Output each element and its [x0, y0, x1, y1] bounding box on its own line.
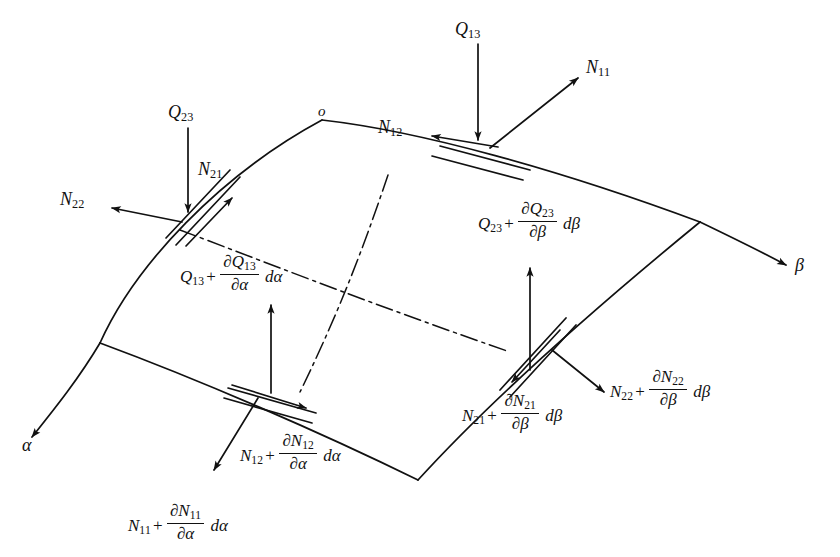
N21-arrow: [186, 198, 232, 246]
bottom-face-band-a: [228, 388, 316, 413]
N12-alpha-arrow: [232, 385, 306, 408]
expr-num-base: ∂N: [282, 431, 302, 450]
expr-plus: +: [151, 516, 165, 535]
N11-label: N11: [586, 58, 610, 79]
N22-label: N22: [60, 190, 85, 211]
expr-denominator: ∂β: [501, 414, 539, 432]
expr-numerator: ∂N22: [649, 368, 687, 390]
expr-base: N: [462, 406, 473, 425]
Q23-sub: 23: [181, 110, 194, 124]
expr-denominator: ∂α: [279, 454, 317, 472]
N12-sub: 12: [390, 125, 403, 139]
expr-fraction: ∂N12∂α: [279, 432, 317, 472]
expr-num-sub: 13: [244, 260, 256, 273]
expr-numerator: ∂N12: [279, 432, 317, 454]
expr-denominator: ∂β: [649, 390, 687, 408]
expr-num-sub: 11: [190, 509, 202, 522]
N12-label: N12: [378, 118, 403, 139]
origin-label: o: [318, 104, 326, 119]
Q13-label: Q13: [455, 20, 481, 41]
expr-differential: dβ: [559, 214, 580, 233]
expr-fraction: ∂Q23∂β: [518, 200, 557, 240]
N21-sub: 21: [210, 167, 223, 181]
expr-denominator: ∂β: [518, 222, 557, 240]
expr-base-sub: 12: [251, 454, 263, 467]
N21-label: N21: [198, 160, 223, 181]
expr-differential: dα: [261, 267, 282, 286]
expr-base-sub: 21: [473, 414, 485, 427]
N22-beta-arrow: [552, 350, 604, 392]
bottom-face-band-b: [224, 398, 312, 423]
expr-numerator: ∂Q13: [220, 253, 259, 275]
N22-base: N: [60, 189, 72, 209]
Q13-sub: 13: [468, 27, 481, 41]
expr-num-sub: 12: [302, 439, 314, 452]
expr-base: N: [240, 446, 251, 465]
expr-differential: dα: [207, 516, 228, 535]
expr-num-sub: 22: [672, 375, 684, 388]
Q23-label: Q23: [168, 103, 194, 124]
expr-plus: +: [502, 214, 516, 233]
expr-base: Q: [180, 267, 192, 286]
expr-differential: dα: [320, 446, 341, 465]
expr-num-base: ∂N: [170, 501, 190, 520]
expr-plus: +: [485, 406, 499, 425]
coordinate-line-alpha: [300, 175, 388, 392]
N11-arrow: [490, 78, 578, 148]
N22-beta-expression: N22+∂N22∂βdβ: [610, 368, 710, 408]
expr-fraction: ∂N11∂α: [167, 502, 204, 542]
expr-plus: +: [263, 446, 277, 465]
N21-beta-arrow: [512, 330, 560, 382]
expr-differential: dβ: [690, 382, 711, 401]
N22-arrow: [112, 208, 182, 222]
expr-base-sub: 11: [139, 524, 151, 537]
N12-base: N: [378, 117, 390, 137]
expr-base: Q: [478, 214, 490, 233]
expr-base-sub: 23: [490, 222, 502, 235]
expr-base-sub: 22: [621, 390, 633, 403]
N21-beta-expression: N21+∂N21∂βdβ: [462, 392, 562, 432]
expr-numerator: ∂N11: [167, 502, 204, 524]
expr-num-sub: 21: [524, 399, 536, 412]
N11-alpha-expression: N11+∂N11∂αdα: [128, 502, 228, 542]
expr-base: N: [610, 382, 621, 401]
expr-fraction: ∂Q13∂α: [220, 253, 259, 293]
N12-alpha-expression: N12+∂N12∂αdα: [240, 432, 341, 472]
N11-base: N: [586, 57, 598, 77]
expr-num-sub: 23: [542, 207, 554, 220]
N21-base: N: [198, 159, 210, 179]
shell-element-figure: o α β Q23 Q13 N11 N12 N21 N22 Q13+∂Q13∂α…: [0, 0, 840, 557]
expr-plus: +: [633, 382, 647, 401]
alpha-axis-line: [32, 343, 100, 437]
expr-plus: +: [204, 267, 218, 286]
expr-num-base: ∂Q: [223, 252, 244, 271]
expr-num-base: ∂Q: [521, 199, 542, 218]
alpha-axis-label: α: [22, 436, 31, 454]
Q23-beta-expression: Q23+∂Q23∂βdβ: [478, 200, 580, 240]
expr-numerator: ∂N21: [501, 392, 539, 414]
left-face-band-b: [176, 177, 240, 245]
expr-differential: dβ: [542, 406, 563, 425]
shell-right-edge: [418, 222, 700, 480]
Q13-alpha-expression: Q13+∂Q13∂αdα: [180, 253, 283, 293]
Q23-base: Q: [168, 102, 181, 122]
expr-num-base: ∂N: [504, 391, 524, 410]
N22-sub: 22: [72, 197, 85, 211]
diagram-canvas: [0, 0, 840, 557]
beta-axis-label: β: [795, 256, 804, 274]
expr-denominator: ∂α: [167, 524, 204, 542]
expr-num-base: ∂N: [652, 367, 672, 386]
expr-base-sub: 13: [192, 275, 204, 288]
Q13-base: Q: [455, 19, 468, 39]
expr-denominator: ∂α: [220, 275, 259, 293]
shell-left-edge: [100, 120, 322, 343]
expr-base: N: [128, 516, 139, 535]
beta-axis-line: [700, 222, 786, 265]
expr-numerator: ∂Q23: [518, 200, 557, 222]
expr-fraction: ∂N21∂β: [501, 392, 539, 432]
N11-sub: 11: [598, 65, 610, 79]
top-face-band-a: [440, 146, 530, 170]
expr-fraction: ∂N22∂β: [649, 368, 687, 408]
